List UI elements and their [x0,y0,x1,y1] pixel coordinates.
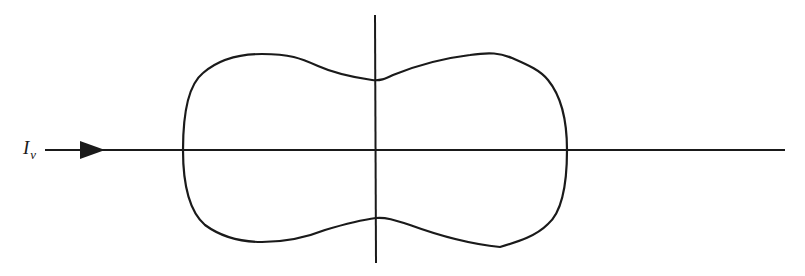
incident-intensity-label: Iν [23,138,36,157]
scattering-diagram [0,0,805,276]
label-main: I [23,137,29,158]
incident-arrowhead-icon [80,141,105,159]
label-subscript: ν [30,147,36,162]
vertical-axis [375,15,376,263]
